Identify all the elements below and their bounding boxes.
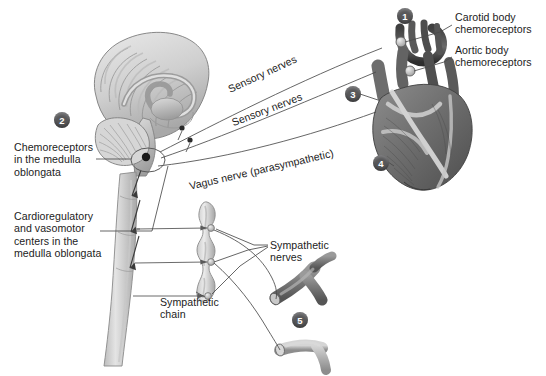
step-marker-4: 4 <box>373 155 389 171</box>
label-sympathetic-nerves: Sympathetic nerves <box>270 239 329 264</box>
aortic-body-node <box>405 66 415 76</box>
label-carotid-body: Carotid body chemoreceptors <box>455 11 532 36</box>
brain-illustration <box>94 32 208 176</box>
step-marker-1: 1 <box>397 8 413 24</box>
step-marker-5: 5 <box>292 312 308 328</box>
label-medulla-chemoreceptors: Chemoreceptors in the medulla oblongata <box>14 141 93 178</box>
carotid-body-node <box>396 37 406 47</box>
blood-vessel-lower-illustration <box>274 342 326 370</box>
step-marker-3: 3 <box>345 86 361 102</box>
spinal-cord-illustration <box>104 148 165 366</box>
step-marker-2: 2 <box>54 112 70 128</box>
sympathetic-chain-illustration <box>197 202 215 301</box>
label-cardioregulatory-centers: Cardioregulatory and vasomotor centers i… <box>14 210 101 259</box>
label-sympathetic-chain: Sympathetic chain <box>160 296 219 321</box>
label-aortic-body: Aortic body chemoreceptors <box>455 44 532 69</box>
figure-canvas: Carotid body chemoreceptors Aortic body … <box>0 0 546 376</box>
preganglionic-fibers <box>133 228 207 296</box>
